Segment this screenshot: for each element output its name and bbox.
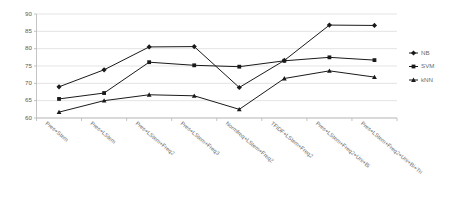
y-tick-label: 65 bbox=[25, 96, 32, 103]
series-line-svm bbox=[59, 57, 374, 99]
data-point-svm-0 bbox=[57, 97, 61, 101]
data-point-nb-7 bbox=[372, 23, 377, 28]
y-tick-label: 85 bbox=[25, 27, 32, 34]
legend-item-knn: kNN bbox=[409, 76, 433, 83]
legend-marker-svm bbox=[412, 65, 416, 69]
x-tick-label: Normfreq+LStem+Freq2 bbox=[225, 120, 275, 164]
legend-item-svm: SVM bbox=[409, 62, 434, 69]
y-axis-ticks-group: 60657075808590 bbox=[25, 10, 36, 121]
data-point-nb-1 bbox=[101, 67, 106, 72]
legend-marker-nb bbox=[411, 50, 416, 55]
x-tick-label: Pres+LStem+Freq2+Uni+Bi bbox=[315, 120, 371, 169]
data-point-svm-2 bbox=[147, 60, 151, 64]
chart-legend: NBSVMkNN bbox=[409, 49, 434, 83]
series-line-nb bbox=[59, 25, 374, 87]
y-tick-label: 90 bbox=[25, 10, 32, 17]
x-tick-label: TFIDF+LStem+Freq2 bbox=[270, 120, 315, 159]
data-point-svm-3 bbox=[192, 63, 196, 67]
data-point-svm-7 bbox=[373, 58, 377, 62]
legend-item-nb: NB bbox=[409, 49, 430, 56]
series-svm bbox=[57, 55, 376, 100]
legend-label: NB bbox=[421, 49, 430, 56]
x-tick-label: Pres+LStem+Freq3 bbox=[180, 120, 221, 156]
data-point-svm-5 bbox=[282, 59, 286, 63]
x-axis-labels-group: Pres+StemPres+LStemPres+LStem+Freq2Pres+… bbox=[44, 120, 423, 175]
line-chart: 60657075808590 Pres+StemPres+LStemPres+L… bbox=[0, 0, 451, 209]
data-point-svm-4 bbox=[237, 65, 241, 69]
series-group bbox=[56, 22, 377, 114]
chart-canvas: 60657075808590 Pres+StemPres+LStemPres+L… bbox=[0, 0, 451, 209]
x-tick-label: Pres+LStem bbox=[89, 120, 117, 145]
x-tick-label: Pres+LStem+Freq2+Uni+Bi+Tri bbox=[360, 120, 424, 175]
data-point-nb-0 bbox=[56, 84, 61, 89]
legend-label: SVM bbox=[421, 62, 434, 69]
legend-label: kNN bbox=[421, 76, 433, 83]
y-tick-label: 60 bbox=[25, 114, 32, 121]
data-point-svm-6 bbox=[328, 55, 332, 59]
y-tick-label: 75 bbox=[25, 62, 32, 69]
y-tick-label: 80 bbox=[25, 44, 32, 51]
x-axis-ticks-group bbox=[37, 118, 398, 121]
x-tick-label: Pres+Stem bbox=[44, 120, 69, 143]
y-tick-label: 70 bbox=[25, 79, 32, 86]
data-point-svm-1 bbox=[102, 91, 106, 95]
x-tick-label: Pres+LStem+Freq2 bbox=[135, 120, 176, 156]
